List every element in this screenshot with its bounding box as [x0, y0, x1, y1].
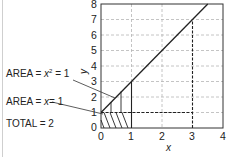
hatched-triangle: [111, 92, 121, 113]
line-y-2x-plus-1: [101, 4, 208, 113]
x-tick-1: 1: [128, 130, 134, 142]
x-tick-2: 2: [159, 130, 165, 142]
x-tick-4: 4: [220, 130, 226, 142]
annotation-area-x-squared: AREA = x2 = 1: [6, 68, 69, 79]
y-tick-5: 5: [91, 44, 97, 56]
x-tick-3: 3: [189, 130, 195, 142]
y-tick-6: 6: [91, 29, 97, 41]
hatched-rectangle: [101, 113, 128, 129]
y-tick-3: 3: [91, 75, 97, 87]
y-tick-0: 0: [91, 121, 97, 133]
y-tick-2: 2: [91, 91, 97, 103]
y-tick-7: 7: [91, 13, 97, 25]
y-tick-4: 4: [91, 60, 97, 72]
annotation-area-x: AREA = x= 1: [6, 96, 63, 107]
x-tick-0: 0: [98, 130, 104, 142]
x-axis-title: x: [166, 142, 171, 153]
y-tick-1: 1: [91, 106, 97, 118]
y-tick-8: 8: [91, 0, 97, 10]
gridlines: [101, 4, 223, 128]
annotation-total: TOTAL = 2: [6, 118, 54, 129]
y-axis-title: y: [78, 69, 89, 74]
